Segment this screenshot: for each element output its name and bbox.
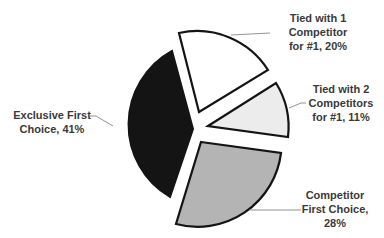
slice-competitor-first-choice	[176, 142, 281, 227]
leader-line-tied1	[231, 33, 270, 35]
label-tied-with-1: Tied with 1 Competitor for #1, 20%	[268, 11, 368, 53]
label-competitor-first-choice: Competitor First Choice, 28%	[290, 188, 380, 230]
label-exclusive-first-choice: Exclusive First Choice, 41%	[4, 108, 100, 136]
label-tied-with-2: Tied with 2 Competitors for #1, 11%	[296, 82, 384, 124]
slice-exclusive-first-choice	[129, 51, 193, 197]
